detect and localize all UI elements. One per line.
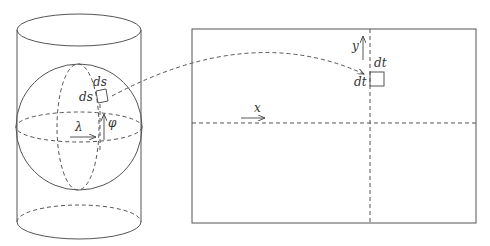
label-dt-top: dt xyxy=(374,56,387,70)
label-lambda: λ xyxy=(74,120,83,134)
label-ds-left: ds xyxy=(79,90,93,104)
projection-diagram: ds ds λ φ y x dt dt xyxy=(0,0,490,246)
cylinder-top-ellipse xyxy=(17,14,141,46)
map-rectangle xyxy=(192,29,476,223)
map-plane: y x dt dt xyxy=(192,29,476,223)
mapping-arc xyxy=(112,53,364,96)
label-phi: φ xyxy=(108,116,117,130)
sphere: ds ds λ φ xyxy=(16,64,142,190)
area-element-dt xyxy=(370,72,384,86)
label-dt-left: dt xyxy=(354,75,367,89)
label-ds-top: ds xyxy=(93,75,107,89)
label-y: y xyxy=(351,39,359,53)
area-element-ds xyxy=(96,89,108,103)
label-x: x xyxy=(254,101,261,115)
cylinder-bottom-back-arc xyxy=(17,205,141,222)
cylinder-bottom-front-arc xyxy=(17,222,141,239)
